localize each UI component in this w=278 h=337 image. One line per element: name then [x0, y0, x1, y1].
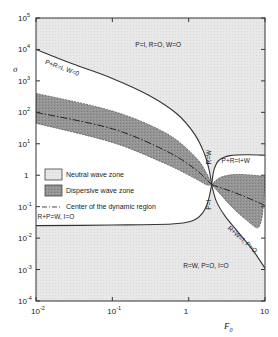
x-axis-title-subscript: 0	[230, 327, 233, 333]
y-tick-label: 10-3	[18, 264, 32, 275]
x-axis-title: F0	[223, 321, 233, 333]
y-tick-label: 1	[24, 171, 29, 180]
legend-label-dispersive: Dispersive wave zone	[66, 187, 134, 195]
region-annotation: R=W, P=O, I=O	[183, 262, 228, 269]
legend-label-neutral: Neutral wave zone	[66, 171, 124, 178]
x-tick-label: 1	[184, 307, 189, 316]
y-axis-title: σ	[13, 64, 18, 74]
y-tick-label: 103	[18, 75, 30, 86]
chart: P+R=I, W=0P=I, R=O, W=OR=WP+R=I+WR+P=W, …	[0, 0, 278, 337]
y-tick-label: 10-2	[18, 232, 32, 243]
legend-label-center: Center of the dynamic region	[66, 203, 156, 211]
y-tick-label: 10-1	[18, 201, 32, 212]
region-annotation: P+R=I+W	[222, 157, 251, 164]
y-tick-label: 102	[18, 106, 30, 117]
y-tick-label: 101	[18, 138, 30, 149]
region-annotation: P=I	[205, 200, 212, 210]
legend: Neutral wave zone Dispersive wave zone C…	[42, 169, 156, 211]
legend-swatch-dispersive	[45, 185, 62, 196]
region-annotation: P=I, R=O, W=O	[135, 41, 181, 48]
region-annotation: R+P=W, I=O	[38, 213, 75, 220]
region-annotation: R=W	[205, 149, 212, 164]
x-tick-label: 10	[260, 307, 269, 316]
y-tick-label: 104	[18, 43, 30, 54]
y-tick-label: 105	[18, 12, 30, 23]
y-tick-label: 10-4	[18, 295, 32, 306]
x-tick-label: 10-2	[31, 305, 45, 316]
x-tick-label: 10-1	[107, 305, 121, 316]
legend-swatch-neutral	[45, 169, 62, 180]
